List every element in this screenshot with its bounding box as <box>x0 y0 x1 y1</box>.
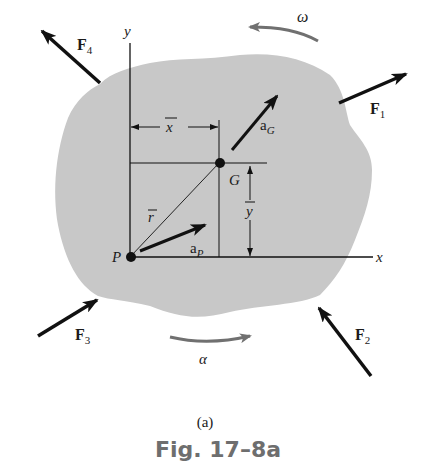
omega-label: ω <box>297 8 308 25</box>
rigid-body-shape <box>55 54 372 317</box>
force-f3-arrow <box>38 300 97 336</box>
point-g-label: G <box>229 172 240 188</box>
force-f1-arrow <box>339 74 406 103</box>
omega-rotation-arrow <box>250 27 318 41</box>
force-f2-label: F2 <box>355 326 370 346</box>
alpha-label: α <box>199 351 208 367</box>
y-bar-label: y <box>244 203 253 219</box>
force-f4-label: F4 <box>77 36 93 56</box>
force-f4-arrow <box>42 31 100 83</box>
point-p-label: P <box>111 249 121 265</box>
point-g <box>215 158 225 168</box>
x-bar-label: x <box>165 119 173 135</box>
y-axis-label: y <box>122 23 131 39</box>
point-p <box>126 252 136 262</box>
figure-sublabel: (a) <box>197 414 214 431</box>
r-bar-label: r <box>148 209 154 225</box>
x-axis-label: x <box>375 249 383 265</box>
alpha-rotation-arrow <box>170 336 250 341</box>
figure-caption: Fig. 17–8a <box>155 437 281 462</box>
force-f3-label: F3 <box>75 326 91 346</box>
force-f1-label: F1 <box>370 100 385 120</box>
rigid-body-diagram: y x x y r G P aP aG F1 F <box>0 0 434 468</box>
